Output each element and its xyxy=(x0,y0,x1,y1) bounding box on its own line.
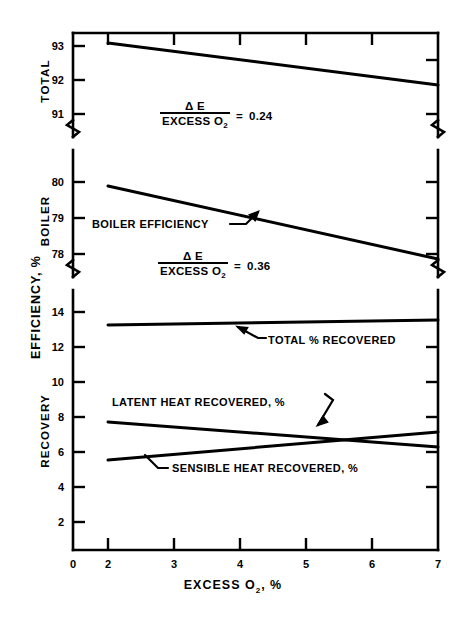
arrowhead-latent-heat xyxy=(318,417,327,425)
series-total-efficiency xyxy=(108,43,438,85)
series-total-recovered xyxy=(108,320,438,325)
chart-figure: EFFICIENCY, % TOTAL BOILER RECOVERY 93 9… xyxy=(0,0,466,617)
series-boiler-efficiency xyxy=(108,186,438,259)
series-latent-heat xyxy=(108,422,438,447)
tick-marks xyxy=(73,33,438,550)
series-sensible-heat xyxy=(108,432,438,460)
plot-vector-layer xyxy=(0,0,466,617)
arrowhead-total-recovered xyxy=(238,327,247,333)
